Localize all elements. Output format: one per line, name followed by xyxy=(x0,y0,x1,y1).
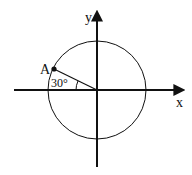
point-a xyxy=(51,66,56,71)
point-a-label: A xyxy=(40,62,51,77)
angle-label: 30° xyxy=(51,76,68,90)
x-axis-label: x xyxy=(176,95,183,110)
angle-arc xyxy=(76,81,78,90)
y-axis-label: y xyxy=(85,10,92,25)
unit-circle-diagram: A 30° y x xyxy=(0,0,192,175)
